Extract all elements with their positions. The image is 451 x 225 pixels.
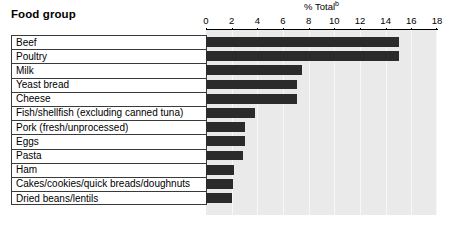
x-axis-tick-label: 18	[432, 15, 443, 26]
bar-10	[206, 165, 234, 175]
bar-2	[206, 51, 399, 61]
category-label-7: Pork (fresh/unprocessed)	[11, 120, 207, 134]
bar-row	[206, 134, 437, 148]
bar-row	[206, 163, 437, 177]
x-axis-tick-label: 8	[306, 15, 311, 26]
bar-11	[206, 179, 233, 189]
x-axis-title-text: % Total	[304, 1, 335, 12]
bar-9	[206, 151, 243, 161]
bar-5	[206, 94, 297, 104]
category-label-3: Milk	[11, 63, 207, 77]
x-axis-tick-label: 4	[255, 15, 260, 26]
bar-row	[206, 35, 437, 49]
bar-6	[206, 108, 255, 118]
category-label-6: Fish/shellfish (excluding canned tuna)	[11, 106, 207, 120]
category-label-9: Pasta	[11, 149, 207, 163]
bar-7	[206, 122, 245, 132]
x-axis-tick-label: 12	[355, 15, 366, 26]
bar-8	[206, 136, 245, 146]
x-axis-title-footnote: b	[335, 0, 339, 7]
bar-row	[206, 63, 437, 77]
bar-row	[206, 177, 437, 191]
bar-row	[206, 92, 437, 106]
category-label-11: Cakes/cookies/quick breads/doughnuts	[11, 177, 207, 191]
x-axis-title: % Totalb	[206, 1, 437, 12]
bar-1	[206, 37, 399, 47]
bar-row	[206, 149, 437, 163]
x-axis-tick-label: 10	[329, 15, 340, 26]
category-label-12: Dried beans/lentils	[11, 191, 207, 205]
bar-row	[206, 120, 437, 134]
category-label-4: Yeast bread	[11, 78, 207, 92]
category-label-1: Beef	[11, 35, 207, 49]
bar-3	[206, 65, 302, 75]
row-header-food-group: Food group	[11, 8, 76, 20]
x-axis-tick-label: 14	[380, 15, 391, 26]
x-axis-ticks: 024681012141618	[206, 15, 437, 29]
x-axis-tick-label: 16	[406, 15, 417, 26]
x-axis-tick-label: 2	[229, 15, 234, 26]
horizontal-bar-chart: Food group % Totalb 024681012141618 Beef…	[0, 0, 451, 225]
bar-row	[206, 191, 437, 205]
category-label-8: Eggs	[11, 134, 207, 148]
category-label-5: Cheese	[11, 92, 207, 106]
bar-12	[206, 193, 232, 203]
x-axis-tick-label: 0	[203, 15, 208, 26]
bar-row	[206, 49, 437, 63]
x-axis-tick-label: 6	[280, 15, 285, 26]
bar-series-layer	[206, 35, 437, 210]
bar-row	[206, 106, 437, 120]
category-label-column: BeefPoultryMilkYeast breadCheeseFish/she…	[11, 35, 207, 205]
bar-row	[206, 78, 437, 92]
category-label-10: Ham	[11, 163, 207, 177]
category-label-2: Poultry	[11, 49, 207, 63]
bar-4	[206, 80, 297, 90]
